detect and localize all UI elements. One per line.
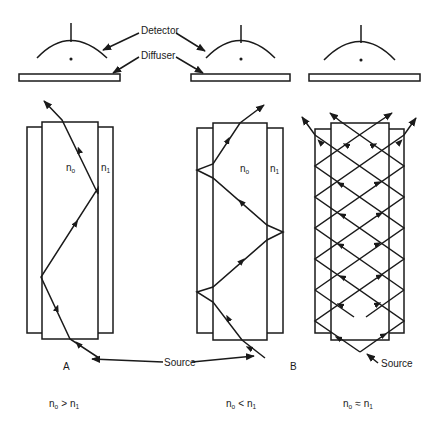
panel-letter-a: A xyxy=(63,361,70,372)
condition-a: no>n1 xyxy=(49,398,80,410)
fiber-diagram: Detector Diffuser Source Source no n1 no… xyxy=(0,0,439,425)
diffuser-a xyxy=(19,74,120,81)
cladding-index-b: n1 xyxy=(270,163,280,175)
condition-c: no≈n1 xyxy=(343,398,373,410)
fiber-b xyxy=(197,123,283,340)
diffuser-c xyxy=(309,74,420,81)
panel-letter-b: B xyxy=(290,361,297,372)
condition-b: no<n1 xyxy=(226,398,257,410)
diffuser-b xyxy=(191,74,290,81)
detector-b xyxy=(206,25,275,60)
detector-label: Detector xyxy=(141,25,179,36)
diffuser-label: Diffuser xyxy=(141,50,176,61)
cladding-index-a: n1 xyxy=(101,162,111,174)
core-b xyxy=(213,123,267,340)
source-label: Source xyxy=(164,357,196,368)
detector-c xyxy=(324,25,395,61)
fiber-c xyxy=(315,123,404,340)
source-label-c: Source xyxy=(381,358,413,369)
detector-a xyxy=(37,23,107,60)
